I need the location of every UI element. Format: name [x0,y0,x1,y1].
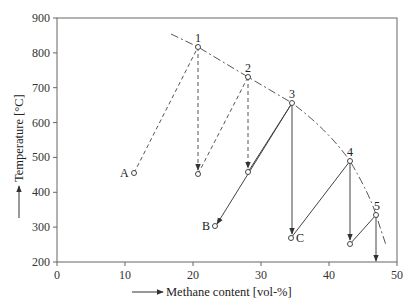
x-axis-title: Methane content [vol-%] [166,285,292,299]
equilibrium-curve-seg [171,34,386,245]
label-3: 3 [289,87,295,101]
y-axis [53,18,57,262]
x-tick-0: 0 [54,268,60,282]
y-tick-labels: 900 800 700 600 500 400 300 200 [32,11,50,269]
label-4: 4 [347,145,353,159]
y-axis-title: Temperature [°C] [12,94,26,182]
point-4-cooled [348,242,353,247]
plot-frame [57,18,397,262]
y-tick-200: 200 [32,255,50,269]
point-2 [246,75,251,80]
y-tick-500: 500 [32,150,50,164]
point-A [132,171,137,176]
data-points [132,45,379,247]
y-tick-300: 300 [32,220,50,234]
point-1-cooled [196,172,201,177]
y-tick-900: 900 [32,11,50,25]
y-tick-400: 400 [32,185,50,199]
y-tick-700: 700 [32,81,50,95]
x-tick-50: 50 [391,268,403,282]
label-5: 5 [374,199,380,213]
x-tick-10: 10 [119,268,131,282]
x-tick-labels: 0 10 20 30 40 50 [54,268,403,282]
y-tick-800: 800 [32,46,50,60]
point-3 [290,101,295,106]
point-B [213,224,218,229]
chart-canvas: 900 800 700 600 500 400 300 200 0 10 20 … [0,0,414,304]
point-C [289,236,294,241]
label-B: B [202,219,210,233]
x-tick-20: 20 [187,268,199,282]
point-4 [348,159,353,164]
label-A: A [120,166,129,180]
x-tick-30: 30 [255,268,267,282]
point-1 [196,45,201,50]
label-2: 2 [245,61,251,75]
label-C: C [296,231,304,245]
point-5 [374,213,379,218]
point-2-cooled [246,170,251,175]
y-tick-600: 600 [32,116,50,130]
x-tick-40: 40 [323,268,335,282]
x-axis [57,262,397,266]
label-1: 1 [195,31,201,45]
point-labels: 1 2 3 4 5 A B C [120,31,380,245]
dashed-paths [134,47,248,174]
